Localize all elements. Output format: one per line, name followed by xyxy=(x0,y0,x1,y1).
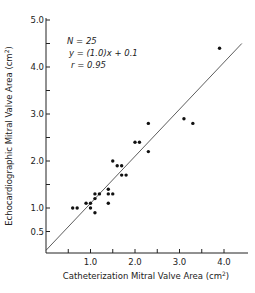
regression-line xyxy=(46,44,242,251)
data-point xyxy=(89,202,92,205)
annotation-equation: y = (1.0)x + 0.1 xyxy=(68,48,138,58)
x-ticks: 1.02.03.04.0 xyxy=(68,249,231,267)
x-tick-label: 2.0 xyxy=(128,257,142,267)
y-tick-label: 0.5 xyxy=(30,227,44,237)
data-points xyxy=(71,47,221,215)
data-point xyxy=(111,159,114,162)
y-axis-title: Echocardiographic Mitral Valve Area (cm2… xyxy=(3,46,14,226)
data-point xyxy=(133,141,136,144)
data-point xyxy=(182,117,185,120)
data-point xyxy=(116,164,119,167)
data-point xyxy=(107,188,110,191)
annotation-r: r = 0.95 xyxy=(71,60,106,70)
data-point xyxy=(75,206,78,209)
data-point xyxy=(107,202,110,205)
data-point xyxy=(120,164,123,167)
y-tick-label: 1.0 xyxy=(30,203,44,213)
y-tick-label: 5.0 xyxy=(30,15,44,25)
data-point xyxy=(93,211,96,214)
y-tick-label: 4.0 xyxy=(30,62,44,72)
data-point xyxy=(147,122,150,125)
data-point xyxy=(89,206,92,209)
x-tick-label: 1.0 xyxy=(84,257,98,267)
data-point xyxy=(98,192,101,195)
scatter-chart: 0.51.02.03.04.05.0 1.02.03.04.0 N = 25 y… xyxy=(0,0,255,293)
data-point xyxy=(138,141,141,144)
data-point xyxy=(93,192,96,195)
x-tick-label: 3.0 xyxy=(173,257,187,267)
x-tick-label: 4.0 xyxy=(217,257,231,267)
data-point xyxy=(84,202,87,205)
data-point xyxy=(124,173,127,176)
data-point xyxy=(191,122,194,125)
x-axis-title: Catheterization Mitral Valve Area (cm2) xyxy=(63,270,229,281)
data-point xyxy=(120,173,123,176)
y-ticks: 0.51.02.03.04.05.0 xyxy=(30,15,50,237)
data-point xyxy=(107,192,110,195)
annotation-block: N = 25 y = (1.0)x + 0.1 r = 0.95 xyxy=(67,36,138,70)
data-point xyxy=(71,206,74,209)
data-point xyxy=(218,47,221,50)
data-point xyxy=(147,150,150,153)
data-point xyxy=(111,192,114,195)
y-tick-label: 3.0 xyxy=(30,109,44,119)
data-point xyxy=(93,197,96,200)
annotation-n: N = 25 xyxy=(67,36,97,46)
y-tick-label: 2.0 xyxy=(30,156,44,166)
